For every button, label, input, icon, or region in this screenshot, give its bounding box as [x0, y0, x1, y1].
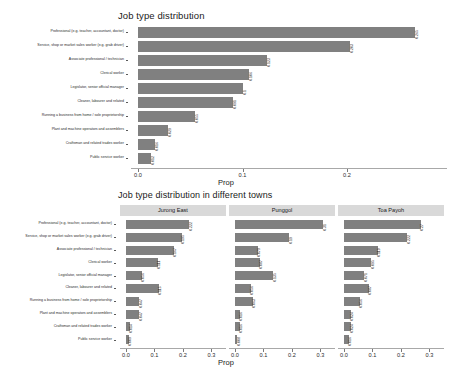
y-axis-tick	[126, 60, 128, 61]
job-type-distribution-by-town-chart: Job type distribution in different towns…	[0, 190, 452, 382]
y-axis-label: Professional (e.g. teacher, accountant, …	[50, 30, 124, 34]
y-axis-label: Cleaner, labourer and related	[77, 100, 124, 104]
y-axis-labels-bottom: Professional (e.g. teacher, accountant, …	[0, 218, 118, 346]
y-axis-label: Running a business from home / sole prop…	[42, 114, 124, 118]
y-axis-label: Plant and machine operators and assemble…	[52, 128, 124, 132]
plot-area-punggol: 0.310.190.0790.0870.1350.0560.0630.0160.…	[229, 218, 335, 346]
y-axis-tick	[126, 88, 128, 89]
bar	[126, 310, 139, 319]
bar-value-label: 0.167	[174, 248, 177, 257]
bar-value-label: 0.029	[170, 128, 173, 137]
bar-value-label: 0.024	[352, 312, 355, 321]
y-axis-tick	[126, 144, 128, 145]
y-axis-label: Plant and machine operators and assemble…	[40, 312, 112, 316]
chart-title-bottom: Job type distribution in different towns	[118, 190, 272, 200]
bar-value-label: 0.19	[290, 237, 293, 244]
chart-page: Job type distribution Professional (e.g.…	[0, 0, 452, 382]
y-axis-label: Associate professional / technician	[69, 58, 124, 62]
bar	[126, 220, 189, 229]
bar	[126, 246, 174, 255]
bar	[344, 284, 369, 293]
bar-value-label: 0.016	[240, 312, 243, 321]
bar-value-label: 0.012	[152, 156, 155, 165]
y-axis-tick	[126, 32, 128, 33]
y-axis-label: Public service worker	[90, 156, 124, 160]
y-axis-tick	[126, 130, 128, 131]
y-axis-label: Associate professional / technician	[57, 248, 112, 252]
bar-value-label: 0.106	[250, 72, 253, 81]
bar	[344, 271, 364, 280]
bar-value-label: 0.1	[244, 90, 247, 95]
bar-value-label: 0.203	[351, 44, 354, 53]
chart-title-top: Job type distribution	[118, 10, 205, 21]
bar-value-label: 0.079	[258, 248, 261, 257]
bar	[138, 69, 249, 80]
bar-value-label: 0.016	[349, 337, 352, 346]
y-axis-tick	[114, 263, 116, 264]
bar	[344, 258, 371, 267]
bar	[138, 111, 195, 122]
bar	[126, 297, 139, 306]
y-axis-label: Legislator, senior official manager	[59, 274, 112, 278]
bar	[235, 284, 251, 293]
plot-area-toa-payoh: 0.270.2220.1190.0950.0710.0870.0560.0240…	[338, 218, 444, 346]
y-axis-label: Service, shop or market sales worker (e.…	[37, 44, 124, 48]
bar	[138, 97, 233, 108]
bar-value-label: 0.115	[160, 286, 163, 294]
y-axis-tick	[114, 224, 116, 225]
bar-value-label: 0.016	[240, 325, 243, 334]
facet-strip-toa-payoh: Toa Payoh	[338, 205, 444, 216]
bar-value-label: 0.087	[261, 261, 264, 270]
bar-value-label: 0.063	[254, 299, 257, 308]
bar-value-label: 0.056	[252, 286, 255, 295]
bar	[344, 297, 360, 306]
y-axis-labels-top: Professional (e.g. teacher, accountant, …	[0, 25, 130, 165]
x-axis-line	[120, 348, 226, 349]
y-axis-label: Cleaner, labourer and related	[65, 286, 112, 290]
x-axis-line-top	[131, 168, 447, 169]
bar-value-label: 0.008	[238, 337, 241, 346]
bar	[235, 297, 253, 306]
bar	[235, 271, 273, 280]
y-axis-tick	[114, 276, 116, 277]
bar-value-label: 0.056	[143, 273, 146, 282]
bar	[344, 220, 421, 229]
bar	[138, 153, 151, 164]
y-axis-tick	[114, 340, 116, 341]
bar	[138, 27, 415, 38]
bar	[126, 271, 142, 280]
bar	[344, 233, 407, 242]
plot-area-jurong-east: 0.2220.1950.1670.1110.0560.1150.0470.047…	[120, 218, 226, 346]
x-axis-line	[338, 348, 444, 349]
y-axis-label: Service, shop or market sales worker (e.…	[25, 235, 112, 239]
bar-value-label: 0.055	[197, 114, 200, 123]
bar-value-label: 0.222	[190, 222, 193, 231]
bar	[126, 233, 182, 242]
bar-value-label: 0.123	[268, 58, 271, 67]
y-axis-tick	[114, 288, 116, 289]
bar	[235, 233, 289, 242]
bar-value-label: 0.047	[140, 312, 143, 321]
y-axis-label: Professional (e.g. teacher, accountant, …	[38, 222, 112, 226]
y-axis-tick	[126, 158, 128, 159]
bar-value-label: 0.27	[422, 224, 425, 231]
bar-value-label: 0.31	[324, 224, 327, 231]
bar-value-label: 0.111	[158, 261, 161, 269]
y-axis-label: Craftsman and related trades worker	[66, 142, 124, 146]
bar-value-label: 0.047	[140, 299, 143, 308]
bar-value-label: 0.195	[182, 235, 185, 244]
bar-value-label: 0.222	[408, 235, 411, 244]
bar	[235, 258, 260, 267]
bar-value-label: 0.016	[156, 142, 159, 151]
bar-value-label: 0.095	[372, 261, 375, 270]
bar-value-label: 0.071	[365, 273, 368, 282]
x-axis-line	[229, 348, 335, 349]
bar	[235, 220, 323, 229]
bar-value-label: 0.009	[129, 337, 132, 346]
bar-value-label: 0.091	[234, 100, 237, 109]
bar-value-label: 0.087	[370, 286, 373, 295]
bar	[138, 139, 155, 150]
y-axis-tick	[114, 237, 116, 238]
y-axis-label: Craftsman and related trades worker	[54, 325, 112, 329]
bar	[138, 41, 350, 52]
